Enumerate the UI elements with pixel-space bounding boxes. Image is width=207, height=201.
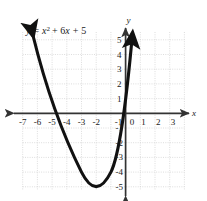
y-tick-label: -3	[116, 152, 124, 162]
equation-lhs: y	[25, 25, 31, 36]
equation-term1-exponent: 2	[47, 25, 51, 33]
x-tick-label: -2	[92, 117, 100, 127]
x-axis-label: x	[191, 108, 196, 118]
y-tick-label: 3	[117, 64, 122, 74]
x-tick-label: -4	[63, 117, 71, 127]
y-tick-label: 1	[117, 94, 122, 104]
equation-term2-var: x	[64, 25, 70, 36]
y-tick-label: -2	[116, 138, 124, 148]
y-tick-label: 4	[117, 50, 122, 60]
parabola-plot: y=x2+6x+5 x y -7 -6 -5 -4 -3 -2 -1 0 1 2…	[0, 0, 207, 201]
y-axis-label: y	[126, 15, 131, 25]
x-tick-labels: -7 -6 -5 -4 -3 -2 -1 0 1 2 3	[19, 117, 176, 127]
x-tick-label: -6	[34, 117, 42, 127]
x-tick-label: -5	[48, 117, 56, 127]
y-tick-label: -4	[116, 167, 124, 177]
equation-plus1: +	[52, 25, 58, 36]
x-tick-label: 0	[130, 117, 135, 127]
equation-constant: 5	[81, 25, 86, 36]
grid-vertical-lines	[23, 32, 185, 190]
x-tick-label: 3	[171, 117, 176, 127]
y-tick-label: 5	[117, 35, 122, 45]
equation-plus2: +	[73, 25, 79, 36]
equation-equals: =	[33, 25, 39, 36]
y-tick-label: -1	[116, 123, 124, 133]
graph-figure: y=x2+6x+5 x y -7 -6 -5 -4 -3 -2 -1 0 1 2…	[0, 0, 207, 201]
x-tick-label: -7	[19, 117, 27, 127]
equation-label: y=x2+6x+5	[25, 25, 86, 36]
y-tick-label: 2	[117, 79, 122, 89]
x-tick-label: -3	[78, 117, 86, 127]
x-tick-label: 2	[156, 117, 161, 127]
x-tick-label: 1	[141, 117, 146, 127]
svg-text:y=x2+6x+5: y=x2+6x+5	[25, 25, 86, 36]
y-tick-label: -5	[116, 182, 124, 192]
